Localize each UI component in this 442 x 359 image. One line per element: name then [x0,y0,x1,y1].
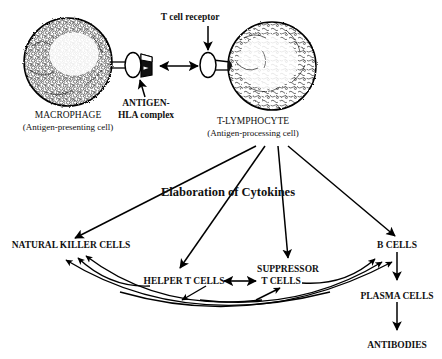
t-lymphocyte-label: T-LYMPHOCYTE [217,116,289,127]
immune-response-figure: T cell receptor ANTIGEN- HLA complex MAC… [0,0,442,359]
mhc-presentation-structure [110,53,152,78]
macrophage-label: MACROPHAGE [35,110,102,121]
node-helper-t-cells: HELPER T CELLS [144,276,225,287]
antigen-hla-label-line2: HLA complex [118,110,174,122]
t-cell-receptor-label: T cell receptor [161,12,220,23]
antigen-hla-label-line1: ANTIGEN- [122,98,170,110]
node-plasma-cells: PLASMA CELLS [360,291,433,302]
t-lymphocyte-sublabel: (Antigen-processing cell) [207,128,299,138]
node-antibodies: ANTIBODIES [367,340,427,351]
elaboration-of-cytokines-label: Elaboration of Cytokines [161,185,295,199]
t-lymphocyte-cell [226,20,320,114]
t-cell-output-arrows [182,286,280,300]
macrophage-sublabel: (Antigen-presenting cell) [23,122,114,132]
node-suppressor-t-cells-line1: SUPPRESSOR [257,264,319,275]
antigen-hla-pointer [140,80,145,97]
node-b-cells: B CELLS [377,240,417,251]
node-natural-killer-cells: NATURAL KILLER CELLS [12,240,131,251]
t-cell-receptor-structure [200,53,232,78]
macrophage-cell [22,16,116,110]
node-suppressor-t-cells-line2: T CELLS [261,276,301,287]
diagram-canvas [0,0,442,359]
